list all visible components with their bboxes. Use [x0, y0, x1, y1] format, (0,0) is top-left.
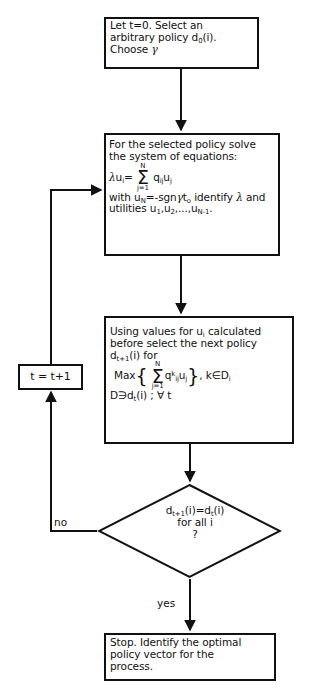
start-line2: arbitrary policy d — [110, 31, 198, 43]
brace-open: { — [135, 365, 147, 387]
solve-line1: For the selected policy solve — [109, 138, 256, 150]
policy-line3-tail: (i) for — [129, 349, 157, 361]
start-line2-tail: (i). — [203, 31, 217, 43]
solve-line5-b: ,u — [161, 202, 171, 214]
policy-line5: D∋dt(i) ; ∀ t — [110, 390, 296, 402]
decision-question-mark: ? — [192, 528, 197, 540]
policy-line3-sub: t+1 — [117, 354, 130, 362]
start-line1: Let t=0. Select an — [110, 19, 203, 31]
process-box-next-policy-text: Using values for ui calculated before se… — [110, 326, 296, 402]
policy-line1-tail: calculated — [205, 325, 261, 337]
solve-line5-c: ,...,u — [175, 202, 198, 214]
solve-line4-a: with u — [109, 191, 141, 203]
decision-mid: (i)=d — [185, 504, 211, 516]
decision-diamond-text: dt+1(i)=dt(i) for all i ? — [135, 505, 255, 540]
solve-line4-d: identify — [191, 191, 236, 203]
policy-line5-b: (i) ; ∀ t — [136, 389, 171, 401]
brace-close: } — [187, 365, 199, 387]
solve-eq-q: q — [153, 171, 160, 183]
start-line3: Choose — [110, 43, 151, 55]
solve-line4-b: =-sgn — [146, 191, 177, 203]
solve-line5-a: utilities u — [109, 202, 156, 214]
solve-line2: the system of equations: — [109, 150, 237, 162]
policy-line2: before select the next policy — [110, 337, 257, 349]
solve-equation-1: λui= N Σ j=1 qijuj — [109, 164, 281, 192]
solve-eq-equals: = — [124, 171, 133, 183]
policy-line5-a: D∋d — [110, 389, 134, 401]
counter-label: t = t+1 — [18, 364, 83, 390]
solve-line5-d: . — [209, 202, 212, 214]
stop-line2: policy vector for the — [110, 648, 214, 660]
policy-max-label: Max — [114, 369, 135, 381]
policy-condition: , k∈D — [199, 369, 229, 381]
decision-line2: for all i — [177, 516, 212, 528]
process-box-stop-text: Stop. Identify the optimal policy vector… — [110, 637, 278, 672]
policy-condition-sub: i — [229, 375, 231, 383]
solve-eq-u2-sub: j — [170, 176, 172, 184]
policy-line3-d: d — [110, 349, 117, 361]
policy-max-equation: Max{ N Σ j=1 qkijuj}, k∈Di — [110, 362, 296, 390]
gamma-symbol: γ — [151, 43, 157, 55]
summation-operator: N Σ j=1 — [137, 164, 149, 192]
solve-line5: utilities u1,u2,...,uN-1. — [109, 203, 281, 215]
process-box-solve-text: For the selected policy solve the system… — [109, 139, 281, 215]
solve-line4-e: and — [243, 191, 266, 203]
solve-line5-c-sub: N-1 — [198, 208, 210, 216]
edge-label-no: no — [54, 516, 67, 528]
decision-tail: (i) — [214, 504, 225, 516]
process-box-start-text: Let t=0. Select an arbitrary policy d0(i… — [110, 20, 260, 55]
summation-operator-2: N Σ j=1 — [152, 362, 164, 390]
stop-line1: Stop. Identify the optimal — [110, 636, 241, 648]
stop-line3: process. — [110, 660, 153, 672]
edge-label-yes: yes — [157, 597, 175, 609]
policy-line1: Using values for u — [110, 325, 203, 337]
